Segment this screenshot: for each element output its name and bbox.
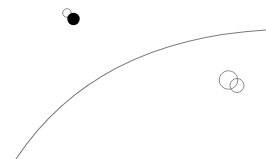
- large-hollow-circle: [219, 71, 238, 90]
- diagram-drawing: [0, 0, 266, 159]
- filled-black-circle: [67, 13, 79, 25]
- medium-hollow-circle: [230, 79, 244, 93]
- diagram-canvas: [0, 0, 266, 159]
- curved-arc-line: [16, 30, 266, 159]
